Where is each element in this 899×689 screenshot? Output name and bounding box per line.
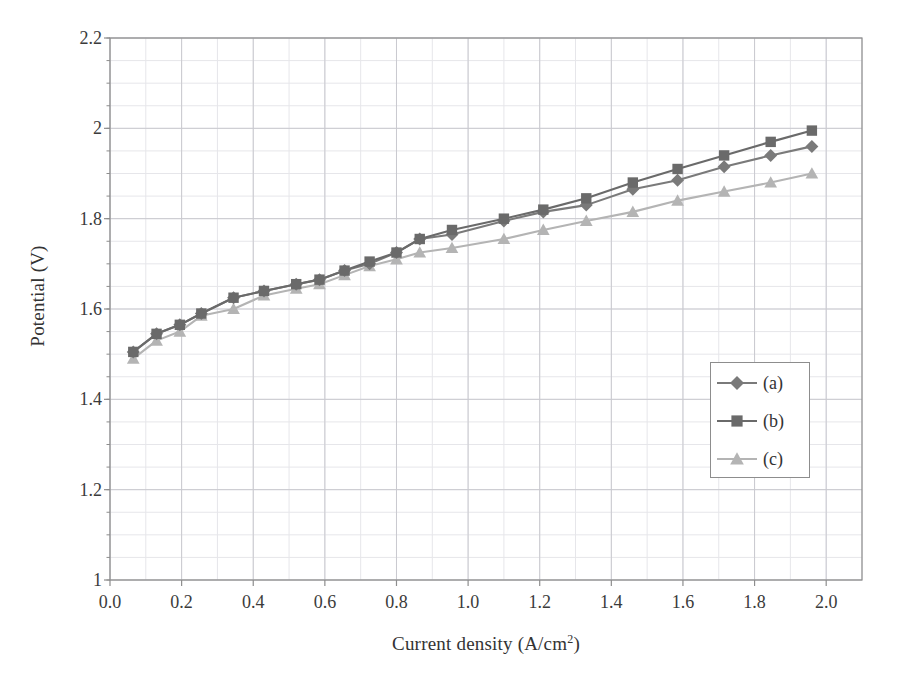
x-tick-label: 0.6 <box>290 592 360 613</box>
legend-label: (a) <box>763 374 783 392</box>
x-tick-label: 0.4 <box>218 592 288 613</box>
y-tick-label: 1.2 <box>42 479 102 500</box>
x-tick-label: 2.0 <box>791 592 861 613</box>
y-tick-label: 1 <box>42 570 102 591</box>
x-axis-label-suffix: ) <box>573 633 580 654</box>
x-axis-label-main: Current density (A/cm <box>392 633 567 654</box>
legend-marker-glyph <box>726 372 748 394</box>
legend-marker-glyph <box>726 448 748 470</box>
y-tick-label: 1.6 <box>42 299 102 320</box>
y-tick-label: 2.2 <box>42 28 102 49</box>
x-tick-label: 1.0 <box>433 592 503 613</box>
y-axis-tick-labels: 11.21.41.61.822.2 <box>38 0 102 689</box>
plot-canvas <box>0 0 899 689</box>
legend-item-b[interactable]: (b) <box>711 402 811 440</box>
legend-marker-glyph <box>726 410 748 432</box>
legend-item-c[interactable]: (c) <box>711 440 811 478</box>
y-tick-label: 1.8 <box>42 208 102 229</box>
x-tick-label: 1.6 <box>648 592 718 613</box>
x-tick-label: 1.2 <box>505 592 575 613</box>
legend-item-a[interactable]: (a) <box>711 364 811 402</box>
legend-label: (b) <box>763 412 784 430</box>
diamond-marker-icon <box>711 364 763 402</box>
x-tick-label: 0.2 <box>147 592 217 613</box>
x-tick-label: 1.4 <box>576 592 646 613</box>
x-tick-label: 1.8 <box>720 592 790 613</box>
axis-ticks <box>104 38 826 586</box>
y-tick-label: 1.4 <box>42 389 102 410</box>
series-c <box>127 167 818 364</box>
x-tick-label: 0.8 <box>362 592 432 613</box>
series-a <box>127 140 819 359</box>
legend-label: (c) <box>763 450 783 468</box>
grid-major <box>110 38 862 580</box>
x-axis-tick-labels: 0.00.20.40.60.81.01.21.41.61.82.0 <box>0 592 899 622</box>
square-marker-icon <box>711 402 763 440</box>
y-tick-label: 2 <box>42 118 102 139</box>
legend: (a)(b)(c) <box>710 362 810 478</box>
x-tick-label: 0.0 <box>75 592 145 613</box>
chart-figure: Potential (V) Current density (A/cm2) 11… <box>0 0 899 689</box>
x-axis-label: Current density (A/cm2) <box>110 633 862 655</box>
triangle-marker-icon <box>711 440 763 478</box>
